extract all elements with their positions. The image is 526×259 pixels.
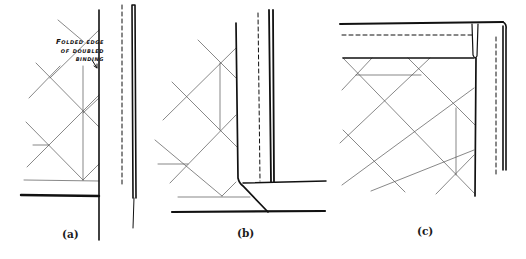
caption-a: (a) bbox=[62, 228, 79, 240]
panel-a-binding-strip bbox=[132, 5, 136, 198]
panel-b-stitch-line bbox=[258, 13, 260, 181]
panel-c-top-edge bbox=[340, 22, 503, 24]
panel-c-mitered-corner bbox=[472, 24, 478, 58]
panel-b-binding-strip bbox=[269, 10, 274, 182]
panel-c-quilting-lines bbox=[340, 58, 475, 194]
panel-c-drawing bbox=[340, 22, 506, 196]
panel-c-folded-edge bbox=[475, 58, 476, 196]
panel-c-binding-strip bbox=[503, 22, 506, 170]
panel-b-folded-edge bbox=[236, 23, 268, 212]
folded-edge-label: Folded edge of doubled binding bbox=[24, 38, 104, 64]
callout-line-1: Folded edge bbox=[24, 38, 104, 47]
callout-line-2: of doubled bbox=[24, 47, 104, 56]
panel-a-bottom-edge bbox=[21, 195, 99, 196]
callout-line-3: binding bbox=[24, 55, 104, 64]
panel-b-bottom-edge bbox=[172, 211, 325, 212]
panel-b-drawing bbox=[155, 10, 326, 212]
caption-b: (b) bbox=[237, 227, 254, 239]
panel-b-binding-top bbox=[243, 181, 326, 183]
caption-c: (c) bbox=[417, 225, 433, 237]
